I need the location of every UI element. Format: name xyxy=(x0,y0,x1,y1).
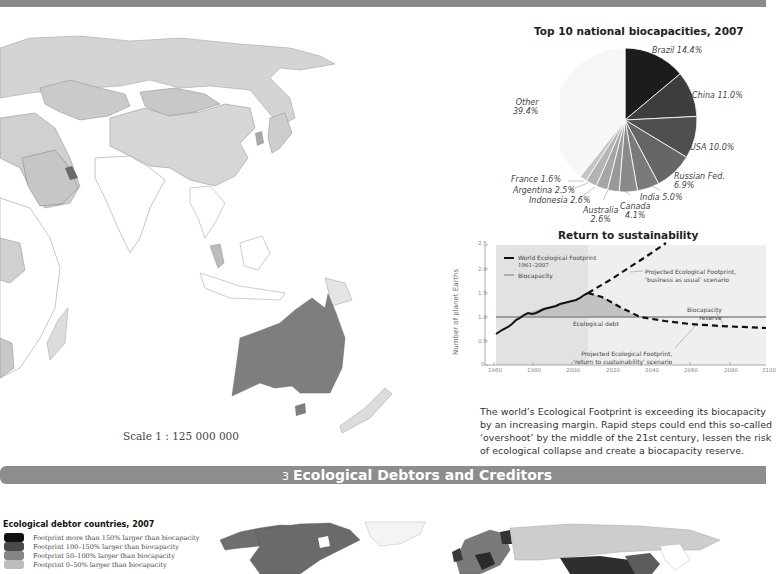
annotation-ecological-debt: Ecological debt xyxy=(573,320,619,327)
x-tick-1960: 1960 xyxy=(488,367,502,373)
southeast-asia-region xyxy=(190,186,225,238)
pie-label-argentina: Argentina 2.5% xyxy=(513,186,575,195)
finland-region xyxy=(500,530,512,544)
pie-chart-title: Top 10 national biocapacities, 2007 xyxy=(534,25,744,37)
legend-swatch xyxy=(4,533,24,542)
section-header-bar: 3Ecological Debtors and Creditors xyxy=(0,466,766,484)
pie-label-france: France 1.6% xyxy=(511,175,561,184)
section-header-bar-top xyxy=(0,0,766,7)
x-tick-2060: 2060 xyxy=(684,367,698,373)
pie-label-canada: Canada4.1% xyxy=(620,202,650,220)
greenland-region xyxy=(365,522,425,546)
chart-caption: The world’s Ecological Footprint is exce… xyxy=(480,405,780,457)
indonesia-region xyxy=(200,273,285,300)
legend-biocapacity-label: Biocapacity xyxy=(518,272,553,279)
pie-label-usa: USA 10.0% xyxy=(690,143,734,152)
pie-label-other: Other39.4% xyxy=(513,98,538,116)
y-axis-label: Number of planet Earths xyxy=(452,235,460,355)
pie-label-india: India 5.0% xyxy=(640,193,683,202)
x-tick-2100: 2100 xyxy=(762,367,776,373)
new-zealand-region xyxy=(340,388,392,433)
x-tick-2040: 2040 xyxy=(645,367,659,373)
y-tick-0: 0 xyxy=(481,361,485,367)
hudson-bay xyxy=(318,536,330,548)
pie-label-australia: Australia2.6% xyxy=(583,206,618,224)
annotation-biocapacity-reserve: Biocapacityreserve xyxy=(687,306,722,321)
debtor-legend: Footprint more than 150% larger than bio… xyxy=(4,533,199,569)
legend-swatch xyxy=(4,560,24,569)
borneo-region xyxy=(240,236,270,270)
y-tick-1-5: 1.5 xyxy=(478,290,487,296)
legend-item-0-50: Footprint 0–50% larger than biocapacity xyxy=(4,560,199,569)
legend-item-50-100: Footprint 50–100% larger than biocapacit… xyxy=(4,551,199,560)
legend-item-over-150: Footprint more than 150% larger than bio… xyxy=(4,533,199,542)
y-tick-1-0: 1.0 xyxy=(478,314,487,320)
annotation-rts: Projected Ecological Footprint,‘return t… xyxy=(573,350,672,365)
legend-swatch xyxy=(4,551,24,560)
debtor-legend-title: Ecological debtor countries, 2007 xyxy=(3,520,154,529)
pie-label-indonesia: Indonesia 2.6% xyxy=(529,196,591,205)
legend-item-100-150: Footprint 100–150% larger than biocapaci… xyxy=(4,542,199,551)
legend-footprint-label: World Ecological Footprint1961–2007 xyxy=(518,254,596,269)
canada-region xyxy=(250,523,360,574)
world-map-debtors xyxy=(220,520,766,574)
y-tick-2-0: 2.0 xyxy=(478,266,487,272)
india-region xyxy=(95,156,165,253)
world-map-asia-oceania xyxy=(0,8,460,463)
pie-label-china: China 11.0% xyxy=(692,91,743,100)
tasmania-region xyxy=(295,403,306,416)
pie-label-russia: Russian Fed.6.9% xyxy=(674,172,725,190)
russia-region-bottom xyxy=(510,524,720,560)
section-title: 3Ecological Debtors and Creditors xyxy=(282,466,552,486)
x-tick-2000: 2000 xyxy=(566,367,580,373)
malaysia-region xyxy=(210,244,224,268)
annotation-bau: Projected Ecological Footprint,‘business… xyxy=(645,268,736,283)
korea-region xyxy=(255,131,264,146)
australia-region xyxy=(232,294,345,396)
x-tick-2080: 2080 xyxy=(724,367,738,373)
pie-label-brazil: Brazil 14.4% xyxy=(652,46,702,55)
y-tick-0-5: 0.5 xyxy=(478,338,487,344)
x-tick-1980: 1980 xyxy=(527,367,541,373)
x-tick-2020: 2020 xyxy=(606,367,620,373)
legend-swatch xyxy=(4,542,24,551)
map-scale-label: Scale 1 : 125 000 000 xyxy=(123,430,239,442)
y-tick-2-5: 2.5 xyxy=(478,240,487,246)
